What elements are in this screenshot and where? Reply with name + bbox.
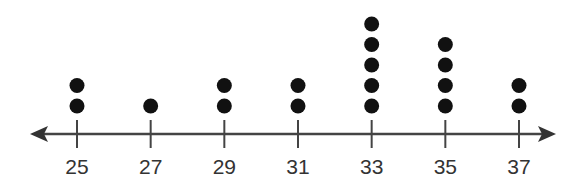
data-dot — [364, 17, 379, 32]
tick-label: 33 — [360, 155, 383, 178]
data-dot — [512, 78, 527, 93]
dots — [70, 17, 527, 114]
data-dot — [364, 37, 379, 52]
number-line — [30, 126, 556, 142]
data-dot — [512, 99, 527, 114]
data-dot — [364, 78, 379, 93]
tick-labels: 25272931333537 — [65, 155, 530, 178]
data-dot — [291, 78, 306, 93]
data-dot — [364, 58, 379, 73]
tick-label: 31 — [286, 155, 309, 178]
data-dot — [438, 58, 453, 73]
data-dot — [438, 78, 453, 93]
tick-label: 29 — [213, 155, 236, 178]
tick-label: 37 — [507, 155, 530, 178]
data-dot — [143, 99, 158, 114]
tick-label: 35 — [434, 155, 457, 178]
data-dot — [70, 78, 85, 93]
dot-plot: 25272931333537 — [0, 0, 584, 184]
data-dot — [438, 99, 453, 114]
data-dot — [217, 78, 232, 93]
data-dot — [438, 37, 453, 52]
tick-label: 27 — [139, 155, 162, 178]
data-dot — [217, 99, 232, 114]
tick-label: 25 — [65, 155, 88, 178]
data-dot — [70, 99, 85, 114]
data-dot — [364, 99, 379, 114]
data-dot — [291, 99, 306, 114]
